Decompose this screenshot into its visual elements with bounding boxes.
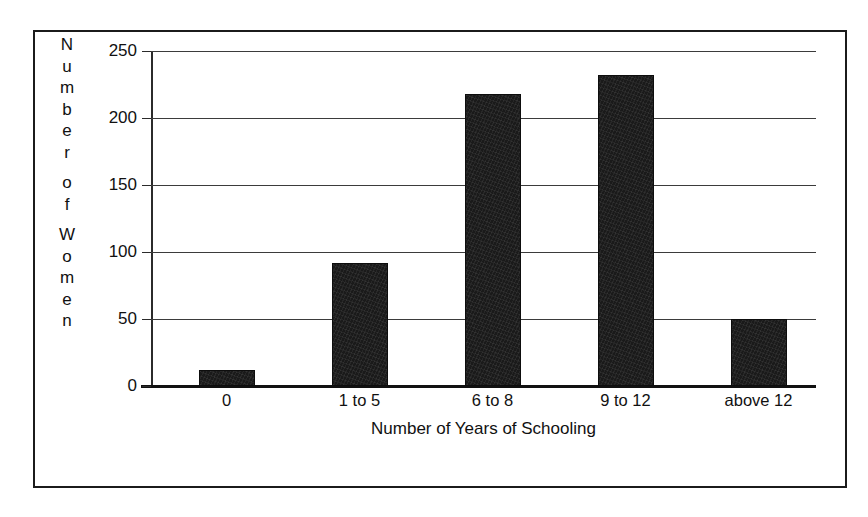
y-axis-title-letter: f	[65, 194, 70, 216]
y-axis-title-letter: m	[60, 77, 74, 99]
category-axis-tick-label: 0	[222, 391, 231, 410]
y-axis-title-letter: b	[62, 99, 71, 121]
y-axis-title-letter: u	[62, 56, 71, 78]
bar	[199, 370, 255, 386]
bar	[332, 263, 388, 386]
value-axis-tick	[142, 252, 151, 253]
value-axis-tick-label: 0	[91, 376, 137, 396]
y-axis-title-letter: o	[62, 246, 71, 268]
y-axis-title-letter: e	[62, 120, 71, 142]
chart-figure-frame: N u m b e r o f W o m e n 05010015020025…	[33, 30, 847, 488]
value-axis-tick	[142, 51, 151, 52]
bar	[731, 319, 787, 386]
value-axis-tick-label: 200	[91, 108, 137, 128]
y-axis-title-letter: o	[62, 172, 71, 194]
value-axis-line	[151, 51, 153, 386]
value-axis-tick	[142, 386, 151, 387]
bar	[465, 94, 521, 386]
value-axis-tick	[142, 319, 151, 320]
value-axis-tick-label: 50	[91, 309, 137, 329]
y-axis-title-letter: W	[59, 224, 75, 246]
category-axis-tick-label: 6 to 8	[472, 391, 513, 410]
y-axis-title: N u m b e r o f W o m e n	[47, 34, 87, 406]
value-axis-tick-label: 150	[91, 175, 137, 195]
category-axis-tick-label: 9 to 12	[600, 391, 650, 410]
value-axis-tick-label: 100	[91, 242, 137, 262]
bar	[598, 75, 654, 386]
plot-area: 050100150200250 01 to 56 to 89 to 12abov…	[151, 51, 816, 386]
y-axis-title-letter: m	[60, 267, 74, 289]
y-axis-title-letter: e	[62, 289, 71, 311]
value-axis-tick-label: 250	[91, 41, 137, 61]
value-axis-tick	[142, 118, 151, 119]
x-axis-title: Number of Years of Schooling	[151, 419, 816, 439]
category-axis-tick-label: above 12	[725, 391, 793, 410]
y-axis-title-letter: r	[64, 142, 70, 164]
category-axis-tick-label: 1 to 5	[339, 391, 380, 410]
y-axis-title-letter: n	[62, 310, 71, 332]
y-axis-title-letter: N	[61, 34, 73, 56]
value-axis-tick	[142, 185, 151, 186]
gridline	[151, 51, 816, 52]
